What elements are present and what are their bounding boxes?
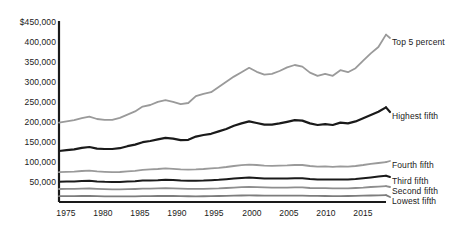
leader-line-highest-fifth xyxy=(386,107,390,112)
leader-line-fourth-fifth xyxy=(386,161,390,162)
series-line-top-5-percent xyxy=(59,35,386,123)
plot-area xyxy=(0,0,462,236)
series-line-highest-fifth xyxy=(59,107,386,151)
series-line-lowest-fifth xyxy=(59,195,386,196)
leader-line-third-fifth xyxy=(386,176,390,177)
leader-line-second-fifth xyxy=(386,186,390,187)
series-line-third-fifth xyxy=(59,176,386,182)
series-line-second-fifth xyxy=(59,186,386,189)
leader-line-lowest-fifth xyxy=(386,195,390,197)
leader-line-top-5-percent xyxy=(386,35,390,38)
income-quintile-line-chart: $450,000 400,000 350,000 300,000 250,000… xyxy=(0,0,462,236)
series-line-fourth-fifth xyxy=(59,162,386,172)
